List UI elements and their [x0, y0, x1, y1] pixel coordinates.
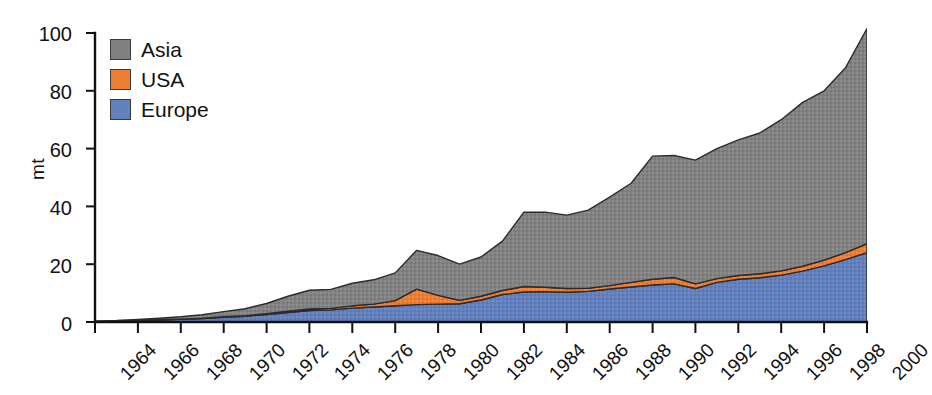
legend-item-europe: Europe — [110, 98, 209, 120]
legend-item-asia: Asia — [110, 38, 209, 60]
chart-legend: Asia USA Europe — [110, 38, 209, 120]
x-tick-label: 2000 — [888, 340, 931, 383]
x-tick-label: 1972 — [288, 340, 331, 383]
x-tick-label: 1986 — [588, 340, 631, 383]
x-tick-label: 1992 — [717, 340, 760, 383]
legend-label-asia: Asia — [141, 39, 182, 60]
x-tick-label: 1974 — [331, 340, 374, 383]
legend-label-usa: USA — [141, 69, 184, 90]
legend-label-europe: Europe — [141, 99, 209, 120]
x-tick-label: 1964 — [116, 340, 159, 383]
x-tick-label: 1978 — [417, 340, 460, 383]
x-tick-label: 1982 — [502, 340, 545, 383]
legend-item-usa: USA — [110, 68, 209, 90]
x-tick-label: 1994 — [760, 340, 803, 383]
legend-swatch-usa — [110, 69, 131, 90]
x-tick-label: 1968 — [202, 340, 245, 383]
x-tick-label: 1966 — [159, 340, 202, 383]
x-tick-label: 1988 — [631, 340, 674, 383]
legend-swatch-europe — [110, 99, 131, 120]
x-tick-label: 1984 — [545, 340, 588, 383]
x-tick-label: 1996 — [803, 340, 846, 383]
x-tick-label: 1980 — [459, 340, 502, 383]
legend-swatch-asia — [110, 39, 131, 60]
x-tick-label: 1976 — [374, 340, 417, 383]
x-tick-label: 1998 — [845, 340, 888, 383]
x-tick-label: 1990 — [674, 340, 717, 383]
x-tick-label: 1970 — [245, 340, 288, 383]
